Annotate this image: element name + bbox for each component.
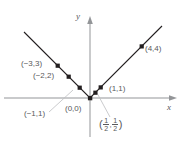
point-0-0: [88, 96, 92, 100]
y-axis-arrowhead: [87, 16, 93, 24]
point-neg3-3: [56, 64, 60, 68]
fraction-open-paren: (: [99, 119, 103, 130]
absolute-value-curve: [24, 26, 162, 98]
point-half-half: [93, 91, 97, 95]
x-axis-arrowhead: [169, 95, 177, 101]
x-axis-label: x: [167, 103, 171, 112]
fraction-close-paren: ): [119, 119, 123, 130]
point-4-4: [140, 44, 144, 48]
fraction-numerator: 1: [112, 117, 118, 124]
point-label-neg1-1: (−1,1): [24, 110, 45, 118]
point-label-neg2-2: (−2,2): [33, 72, 54, 80]
axes-group: [4, 16, 177, 137]
leader-line-half: [97, 93, 110, 117]
fraction-one-half-x: 1 2: [103, 117, 109, 133]
curve-path: [24, 26, 162, 98]
point-label-1-1: (1,1): [109, 85, 125, 93]
point-label-0-0: (0,0): [65, 105, 81, 113]
plot-canvas: [0, 0, 183, 143]
fraction-denominator: 2: [103, 124, 109, 132]
point-label-half-half: ( 1 2 , 1 2 ): [99, 117, 122, 133]
absolute-value-graph-figure: y x (−3,3) (−2,2) (−1,1) (0,0) (1,1) (4,…: [0, 0, 183, 143]
point-1-1: [99, 85, 103, 89]
point-label-neg3-3: (−3,3): [21, 60, 42, 68]
point-neg2-2: [67, 75, 71, 79]
point-label-4-4: (4,4): [145, 45, 161, 53]
y-axis-label: y: [76, 12, 80, 21]
data-points-group: [56, 44, 144, 100]
fraction-numerator: 1: [103, 117, 109, 124]
fraction-one-half-y: 1 2: [112, 117, 118, 133]
fraction-denominator: 2: [112, 124, 118, 132]
point-neg1-1: [78, 86, 82, 90]
